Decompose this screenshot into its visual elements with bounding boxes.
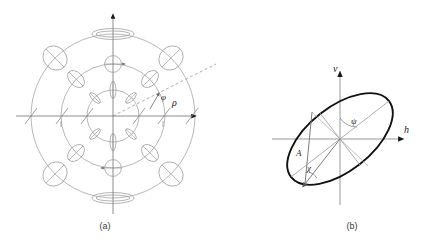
panel-b-caption: (b): [347, 221, 358, 231]
axis-h-label: h: [404, 124, 409, 135]
amplitude-label-A: A: [295, 148, 302, 158]
canvas-background: [0, 0, 434, 242]
phi-angle-label: φ: [161, 92, 166, 102]
orientation-label-psi: ψ: [351, 116, 357, 126]
figure-root: ρ φ: [0, 0, 434, 242]
axis-v-label: v: [333, 63, 338, 74]
axis-rho-label: ρ: [171, 97, 177, 108]
panel-a-caption: (a): [100, 221, 111, 231]
figure-canvas: ρ φ: [0, 0, 434, 242]
